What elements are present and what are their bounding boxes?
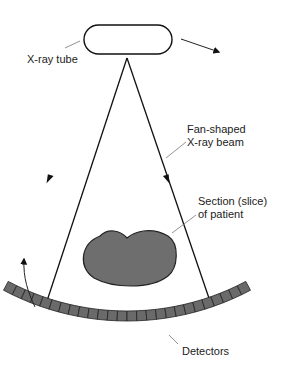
beam-label-line1: Fan-shaped <box>187 123 246 135</box>
section-label-line1: Section (slice) <box>198 195 267 207</box>
xray-tube <box>84 25 172 54</box>
detector-cell <box>78 307 89 318</box>
detector-array <box>4 281 251 321</box>
patient-section <box>83 231 176 286</box>
detector-cell <box>137 310 147 321</box>
beam-label-line2: X-ray beam <box>187 136 244 148</box>
detector-cell <box>107 310 117 321</box>
detectors-leader-line <box>169 335 178 344</box>
xray-tube-label: X-ray tube <box>27 53 78 65</box>
detector-cell <box>117 311 127 321</box>
tube-rotation-arrow <box>181 39 219 52</box>
detector-cell <box>88 308 99 319</box>
detector-cell <box>97 309 108 320</box>
ct-fan-beam-diagram: X-ray tube Fan-shaped X-ray beam Section… <box>0 0 295 374</box>
beam-leader-line <box>166 142 186 158</box>
detector-cell <box>127 311 137 321</box>
detectors-label: Detectors <box>182 345 230 357</box>
xray-tube-leader-line <box>65 41 80 48</box>
section-label-line2: of patient <box>198 208 243 220</box>
detector-cell <box>146 309 157 320</box>
section-leader-line <box>172 215 196 233</box>
beam-left-arrowhead <box>45 174 53 184</box>
